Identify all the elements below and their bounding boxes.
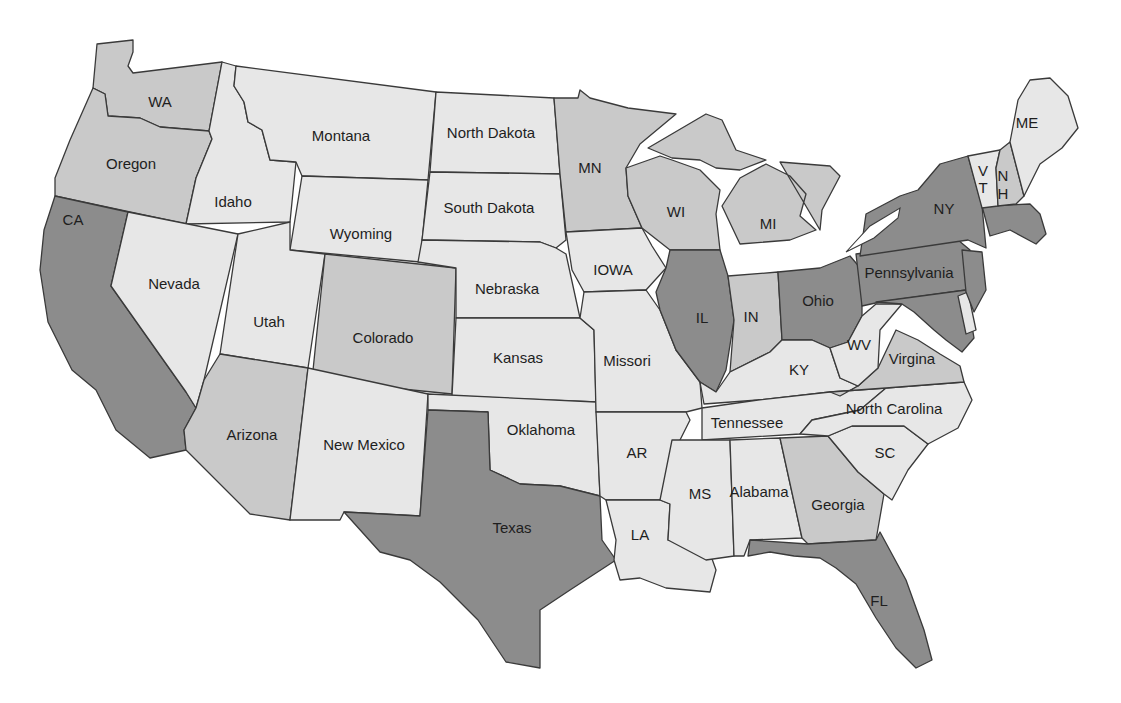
label-nh-2: H (998, 185, 1009, 202)
label-ga: Georgia (811, 496, 865, 513)
label-al: Alabama (729, 483, 789, 500)
label-wa: WA (148, 93, 172, 110)
label-sc: SC (875, 444, 896, 461)
state-ma[interactable] (982, 204, 1046, 244)
label-mt: Montana (312, 127, 371, 144)
label-me: ME (1016, 114, 1039, 131)
state-fl[interactable] (748, 532, 932, 668)
label-ar: AR (627, 444, 648, 461)
label-mn: MN (578, 159, 601, 176)
state-wy[interactable] (290, 176, 428, 262)
label-il: IL (696, 309, 709, 326)
label-id: Idaho (214, 193, 252, 210)
label-oh: Ohio (802, 292, 834, 309)
label-ca: CA (63, 211, 84, 228)
label-ne: Nebraska (475, 280, 540, 297)
label-co: Colorado (353, 329, 414, 346)
label-sd: South Dakota (444, 199, 536, 216)
state-mi[interactable] (722, 162, 840, 244)
label-wv: WV (847, 336, 871, 353)
label-nm: New Mexico (323, 436, 405, 453)
label-az: Arizona (227, 426, 279, 443)
label-wy: Wyoming (330, 225, 392, 242)
label-ut: Utah (253, 313, 285, 330)
label-mi: MI (760, 215, 777, 232)
label-va: Virgina (889, 350, 936, 367)
label-ms: MS (689, 485, 712, 502)
label-ks: Kansas (493, 349, 543, 366)
label-ky: KY (789, 361, 809, 378)
label-wi: WI (667, 203, 685, 220)
label-nh-1: N (998, 167, 1009, 184)
label-fl: FL (870, 592, 888, 609)
label-tn: Tennessee (711, 414, 784, 431)
label-mo: Missori (603, 352, 651, 369)
label-nd: North Dakota (447, 124, 536, 141)
label-la: LA (631, 526, 649, 543)
label-ok: Oklahoma (507, 421, 576, 438)
state-ny[interactable] (860, 156, 986, 256)
label-vt-1: V (978, 162, 988, 179)
label-pa: Pennsylvania (864, 264, 954, 281)
label-or: Oregon (106, 155, 156, 172)
label-nc: North Carolina (846, 400, 943, 417)
label-vt-2: T (978, 179, 987, 196)
label-ny: NY (934, 200, 955, 217)
label-tx: Texas (492, 519, 531, 536)
label-nv: Nevada (148, 275, 200, 292)
state-me[interactable] (1010, 78, 1078, 196)
label-in: IN (744, 308, 759, 325)
us-states-map: WA Oregon CA Idaho Nevada Montana Wyomin… (0, 0, 1121, 703)
label-ia: IOWA (593, 261, 632, 278)
